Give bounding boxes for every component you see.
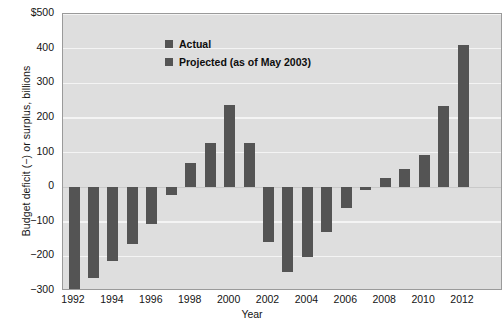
bar xyxy=(88,187,99,278)
bar xyxy=(107,187,118,261)
legend: Actual Projected (as of May 2003) xyxy=(165,36,311,72)
bar xyxy=(244,143,255,187)
x-axis-tick-label: 2006 xyxy=(325,293,365,305)
gridline xyxy=(63,83,501,85)
x-axis-tick-label: 2002 xyxy=(248,293,288,305)
y-axis-tick-label: 0 xyxy=(0,179,54,191)
legend-label: Actual xyxy=(179,38,211,50)
bar xyxy=(166,187,177,195)
x-axis-tick-label: 1992 xyxy=(53,293,93,305)
bar xyxy=(419,155,430,187)
legend-swatch-icon xyxy=(165,40,173,48)
bar xyxy=(458,45,469,187)
bar xyxy=(263,187,274,242)
x-axis-tick-label: 2004 xyxy=(286,293,326,305)
y-axis-tick-label: $500 xyxy=(0,6,54,18)
bar xyxy=(302,187,313,257)
bar xyxy=(380,178,391,187)
gridline xyxy=(63,117,501,119)
x-axis-tick-label: 2010 xyxy=(403,293,443,305)
y-axis-tick-label: −100 xyxy=(0,214,54,226)
bar xyxy=(185,163,196,187)
bar xyxy=(205,143,216,187)
y-axis-tick-label: 300 xyxy=(0,75,54,87)
bar xyxy=(438,106,449,187)
legend-label: Projected (as of May 2003) xyxy=(179,56,311,68)
bar xyxy=(360,187,371,190)
budget-deficit-bar-chart: Budget deficit (−) or surplus, billions … xyxy=(0,0,504,326)
plot-area: Actual Projected (as of May 2003) xyxy=(62,13,502,290)
y-axis-tick-label: −200 xyxy=(0,248,54,260)
bar xyxy=(69,187,80,290)
legend-item-actual: Actual xyxy=(165,36,311,51)
gridline xyxy=(63,13,501,15)
bar xyxy=(146,187,157,224)
bar xyxy=(321,187,332,232)
x-axis-tick-labels: 1992199419961998200020022004200620082010… xyxy=(0,293,504,309)
x-axis-title: Year xyxy=(0,308,504,320)
bar xyxy=(282,187,293,272)
x-axis-tick-label: 2000 xyxy=(209,293,249,305)
y-axis-tick-label: 100 xyxy=(0,145,54,157)
x-axis-tick-label: 1998 xyxy=(170,293,210,305)
x-axis-tick-label: 2008 xyxy=(364,293,404,305)
bar xyxy=(127,187,138,244)
x-axis-tick-label: 1996 xyxy=(131,293,171,305)
x-axis-tick-label: 1994 xyxy=(92,293,132,305)
legend-swatch-icon xyxy=(165,58,173,66)
bar xyxy=(341,187,352,208)
gridline xyxy=(63,152,501,154)
y-axis-tick-label: 400 xyxy=(0,41,54,53)
x-axis-tick-label: 2012 xyxy=(442,293,482,305)
legend-item-projected: Projected (as of May 2003) xyxy=(165,54,311,69)
bar xyxy=(399,169,410,187)
y-axis-tick-label: 200 xyxy=(0,110,54,122)
bar xyxy=(224,105,235,187)
